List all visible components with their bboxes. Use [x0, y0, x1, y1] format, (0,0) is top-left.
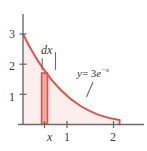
- x-tick-label-1: 1: [64, 131, 70, 143]
- y-tick-label-3: 3: [9, 28, 15, 40]
- dx-annotation-label: dx: [41, 44, 52, 56]
- dx-strip: [42, 73, 48, 124]
- plot-svg: [0, 0, 147, 151]
- function-label-exponent: −x: [101, 66, 109, 74]
- y-tick-label-2: 2: [9, 60, 15, 72]
- function-label-leader: [87, 82, 94, 97]
- shaded-region: [23, 34, 120, 124]
- figure-container: 3 2 1 x 1 2 dx y= 3e−x: [0, 0, 147, 151]
- function-annotation-label: y= 3e−x: [77, 68, 109, 79]
- x-tick-label-2: 2: [110, 131, 116, 143]
- y-tick-label-1: 1: [9, 91, 15, 103]
- x-tick-label-x: x: [47, 131, 52, 143]
- function-label-equals: = 3: [82, 67, 96, 79]
